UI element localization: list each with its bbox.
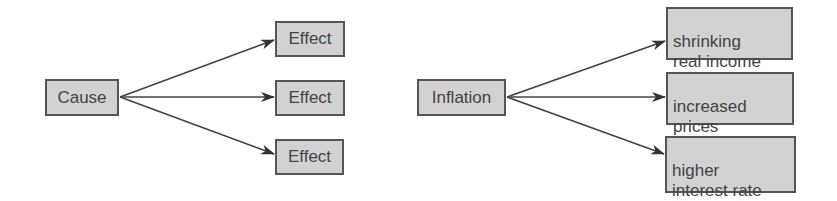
effect-label: Effect [288,147,331,167]
effect-label: Effect [288,29,331,49]
increased-prices-box: increased prices [666,72,794,125]
effect-box-3: Effect [275,139,344,175]
shrinking-real-income-box: shrinking real income [666,7,793,60]
cause-label: Cause [57,88,106,108]
inflation-box: Inflation [417,79,506,116]
effect-box-2: Effect [275,80,345,116]
cause-box: Cause [45,79,119,116]
arrow-inflation-effect-1 [507,41,665,97]
higher-interest-rate-box: higher interest rate [665,136,796,193]
arrow-cause-effect-1 [120,40,274,97]
inflation-label: Inflation [432,88,492,108]
arrow-inflation-effect-3 [507,97,664,154]
shrinking-real-income-label: shrinking real income [673,32,761,71]
arrow-cause-effect-3 [120,97,274,154]
effect-box-1: Effect [275,21,345,57]
higher-interest-rate-label: higher interest rate [672,161,762,200]
effect-label: Effect [288,88,331,108]
